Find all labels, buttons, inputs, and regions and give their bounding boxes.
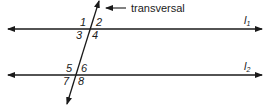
- angle-3: 3: [76, 29, 83, 41]
- angle-1: 1: [80, 16, 86, 28]
- angle-8: 8: [78, 75, 85, 87]
- angle-5: 5: [66, 62, 73, 74]
- line-l2-label: l2: [244, 60, 250, 73]
- line-l1-label: l1: [244, 14, 250, 27]
- angle-7: 7: [63, 75, 70, 87]
- angle-4: 4: [92, 29, 98, 41]
- parallel-lines-diagram: transversal l1 l2 1 2 3 4 5 6 7 8: [0, 0, 268, 107]
- transversal-label: transversal: [131, 2, 185, 14]
- angle-2: 2: [95, 16, 102, 28]
- angle-6: 6: [81, 62, 88, 74]
